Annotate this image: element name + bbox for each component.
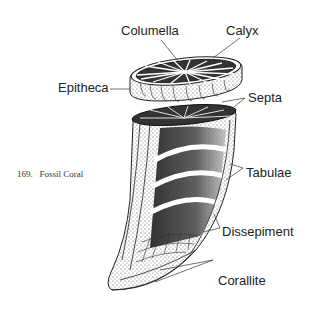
label-epitheca: Epitheca bbox=[58, 81, 109, 94]
fossil-coral-diagram: Columella Calyx Epitheca Septa Tabulae D… bbox=[0, 0, 309, 314]
figure-title: Fossil Coral bbox=[40, 169, 84, 179]
label-calyx: Calyx bbox=[226, 24, 259, 37]
corallite-body bbox=[108, 101, 237, 290]
label-dissepiment: Dissepiment bbox=[222, 225, 294, 238]
label-septa: Septa bbox=[248, 91, 282, 104]
calyx-disc bbox=[130, 52, 242, 102]
label-columella: Columella bbox=[121, 24, 179, 37]
label-tabulae: Tabulae bbox=[246, 166, 292, 179]
figure-caption: 169. Fossil Coral bbox=[17, 169, 83, 179]
label-corallite: Corallite bbox=[218, 274, 266, 287]
coral-illustration bbox=[0, 0, 309, 314]
figure-number: 169. bbox=[17, 169, 33, 179]
